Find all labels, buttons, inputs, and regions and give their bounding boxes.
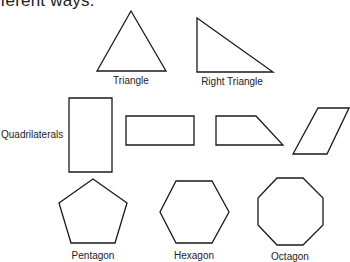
triangle-label: Triangle bbox=[113, 75, 149, 86]
right-triangle-shape bbox=[197, 18, 273, 72]
pentagon-label: Pentagon bbox=[72, 250, 115, 261]
pentagon-shape bbox=[59, 179, 127, 243]
hexagon-shape bbox=[160, 181, 229, 243]
parallelogram-shape bbox=[293, 108, 349, 154]
hexagon-label: Hexagon bbox=[174, 250, 214, 261]
triangle-shape bbox=[97, 11, 166, 71]
octagon-label: Octagon bbox=[271, 251, 309, 262]
wide-rectangle-shape bbox=[126, 116, 194, 145]
right-triangle-label: Right Triangle bbox=[201, 76, 263, 87]
quadrilaterals-label: Quadrilaterals bbox=[1, 129, 63, 140]
octagon-shape bbox=[258, 178, 323, 245]
tall-rectangle-shape bbox=[69, 98, 112, 172]
trapezoid-shape bbox=[216, 116, 283, 145]
